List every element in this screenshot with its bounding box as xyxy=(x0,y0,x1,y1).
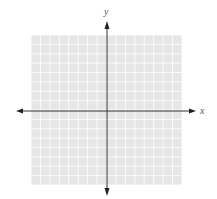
y-axis-up-arrow-icon xyxy=(105,21,110,29)
y-axis-label: y xyxy=(103,6,109,17)
x-axis-right-arrow-icon xyxy=(189,109,196,114)
y-axis-down-arrow-icon xyxy=(105,188,110,196)
x-axis-label: x xyxy=(199,105,205,116)
x-axis-left-arrow-icon xyxy=(16,109,23,114)
coordinate-plane: x y xyxy=(0,0,217,199)
